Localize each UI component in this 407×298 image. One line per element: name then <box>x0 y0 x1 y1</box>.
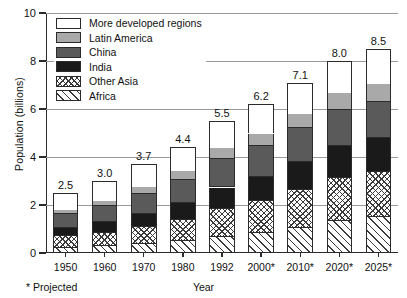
bar-segment-other-asia <box>248 201 274 233</box>
bar-segment-africa <box>366 217 392 253</box>
bar-segment-china <box>131 194 157 214</box>
bar-total-label: 3.7 <box>136 150 151 162</box>
bar-segment-more-developed-regions <box>92 181 118 201</box>
bar-segment-latin-america <box>131 187 157 194</box>
bar-segment-other-asia <box>170 220 196 242</box>
bar-total-label: 5.5 <box>214 107 229 119</box>
legend-label: Other Asia <box>89 76 138 87</box>
y-tick-mark <box>39 204 46 205</box>
bar-segment-china <box>366 102 392 138</box>
chart-root: Population (billions) Year * Projected 0… <box>0 0 407 298</box>
legend-label: Africa <box>89 91 116 102</box>
x-tick-label: 2025* <box>365 261 392 273</box>
y-tick-label: 6 <box>30 104 36 115</box>
footnote-projected: * Projected <box>26 281 77 293</box>
y-tick-label: 4 <box>30 152 36 163</box>
legend-item: Latin America <box>56 31 202 46</box>
legend-item: Africa <box>56 89 202 104</box>
bar-1992: 5.5 <box>209 121 235 253</box>
bar-segment-india <box>248 177 274 201</box>
bar-segment-china <box>209 159 235 187</box>
bar-segment-africa <box>170 241 196 253</box>
legend-swatch-latin-america <box>56 32 81 43</box>
bar-2010: 7.1 <box>287 83 313 253</box>
bar-segment-africa <box>92 246 118 253</box>
bar-segment-china <box>287 128 313 162</box>
y-tick-label: 0 <box>30 248 36 259</box>
bar-segment-more-developed-regions <box>248 104 274 133</box>
bar-segment-more-developed-regions <box>287 83 313 114</box>
legend-label: More developed regions <box>89 18 202 29</box>
bar-segment-africa <box>53 248 79 253</box>
x-tick-label: 1980 <box>171 261 194 273</box>
y-tick-label: 10 <box>24 8 36 19</box>
y-tick-label: 8 <box>30 56 36 67</box>
bar-total-label: 8.0 <box>332 47 347 59</box>
legend-label: Latin America <box>89 33 153 44</box>
y-tick-mark <box>39 108 46 109</box>
bar-segment-africa <box>287 228 313 253</box>
y-tick-mark <box>39 252 46 253</box>
bar-segment-india <box>209 188 235 209</box>
bar-segment-latin-america <box>287 114 313 129</box>
bar-segment-india <box>53 228 79 237</box>
bar-segment-latin-america <box>170 171 196 180</box>
bar-total-label: 7.1 <box>293 69 308 81</box>
bar-segment-china <box>53 214 79 227</box>
bar-2000: 6.2 <box>248 104 274 253</box>
bar-total-label: 3.0 <box>97 167 112 179</box>
bar-total-label: 4.4 <box>175 133 190 145</box>
bar-segment-latin-america <box>53 210 79 214</box>
y-tick-mark <box>39 60 46 61</box>
x-tick-label: 1970 <box>132 261 155 273</box>
bar-segment-other-asia <box>366 172 392 218</box>
legend: More developed regionsLatin AmericaChina… <box>54 14 206 105</box>
bar-segment-other-asia <box>209 209 235 237</box>
bar-segment-india <box>287 162 313 190</box>
bar-segment-latin-america <box>248 134 274 146</box>
bar-segment-africa <box>248 233 274 253</box>
bar-1960: 3.0 <box>92 181 118 253</box>
bar-segment-other-asia <box>131 227 157 244</box>
bar-segment-india <box>327 146 353 178</box>
y-tick-mark <box>39 12 46 13</box>
bar-segment-india <box>170 203 196 220</box>
bar-total-label: 6.2 <box>253 90 268 102</box>
bar-segment-latin-america <box>209 148 235 159</box>
bar-segment-more-developed-regions <box>366 49 392 84</box>
legend-label: China <box>89 47 116 58</box>
bar-1970: 3.7 <box>131 164 157 253</box>
bar-segment-more-developed-regions <box>131 164 157 187</box>
bar-segment-latin-america <box>366 84 392 102</box>
x-tick-label: 2020* <box>326 261 353 273</box>
bar-segment-india <box>131 214 157 227</box>
bar-2020: 8.0 <box>327 61 353 253</box>
bar-segment-china <box>170 180 196 204</box>
y-axis-line <box>46 13 47 253</box>
bar-1980: 4.4 <box>170 147 196 253</box>
bar-segment-africa <box>131 244 157 253</box>
bar-segment-more-developed-regions <box>53 193 79 210</box>
legend-swatch-more-developed-regions <box>56 18 81 29</box>
x-tick-label: 2010* <box>286 261 313 273</box>
bar-total-label: 2.5 <box>58 179 73 191</box>
y-axis-title: Population (billions) <box>13 49 25 199</box>
bar-segment-more-developed-regions <box>170 147 196 171</box>
legend-item: More developed regions <box>56 16 202 31</box>
bar-segment-other-asia <box>327 178 353 221</box>
bar-segment-other-asia <box>53 236 79 247</box>
x-tick-label: 1950 <box>54 261 77 273</box>
bar-segment-china <box>248 146 274 177</box>
bar-segment-other-asia <box>92 233 118 247</box>
y-tick-mark <box>39 156 46 157</box>
legend-item: China <box>56 45 202 60</box>
legend-swatch-africa <box>56 90 81 101</box>
legend-item: India <box>56 60 202 75</box>
bar-segment-china <box>327 110 353 146</box>
legend-item: Other Asia <box>56 74 202 89</box>
bar-segment-more-developed-regions <box>327 61 353 93</box>
bar-segment-india <box>92 222 118 233</box>
bar-segment-africa <box>327 221 353 253</box>
bar-total-label: 8.5 <box>371 35 386 47</box>
bar-segment-china <box>92 206 118 222</box>
